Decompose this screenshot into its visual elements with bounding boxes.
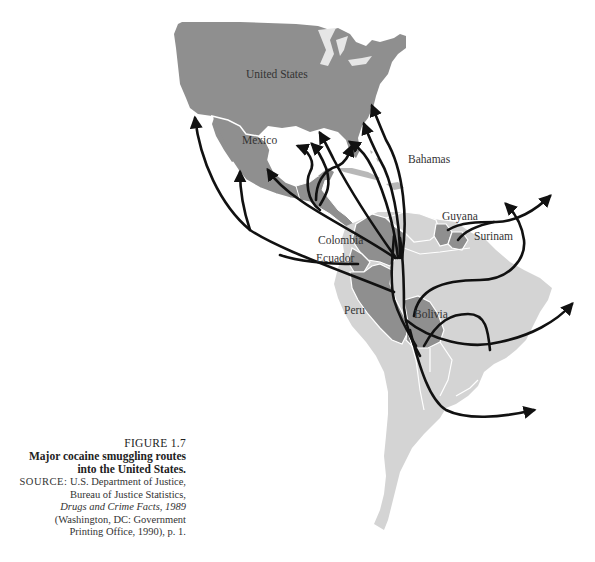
source-line5: Printing Office, 1990), p. 1. [19, 526, 186, 539]
label-bolivia: Bolivia [414, 308, 448, 320]
figure-title-line2: into the United States. [19, 463, 186, 476]
source-line1: SOURCE: U.S. Department of Justice, [19, 476, 186, 489]
source-label: SOURCE: [19, 476, 67, 487]
figure-caption: FIGURE 1.7 Major cocaine smuggling route… [19, 437, 186, 539]
source-line4: (Washington, DC: Government [19, 514, 186, 527]
label-colombia: Colombia [318, 234, 363, 246]
label-mexico: Mexico [242, 134, 277, 146]
label-surinam: Surinam [474, 230, 513, 242]
label-peru: Peru [344, 304, 365, 316]
source-line2: Bureau of Justice Statistics, [19, 489, 186, 502]
label-guyana: Guyana [442, 210, 478, 222]
figure-number: FIGURE 1.7 [19, 437, 186, 450]
label-united-states: United States [246, 68, 308, 80]
source-text-1: U.S. Department of Justice, [70, 476, 186, 487]
label-ecuador: Ecuador [316, 252, 354, 264]
figure-title-line1: Major cocaine smuggling routes [19, 450, 186, 463]
united-states-shape [174, 22, 406, 158]
source-line3: Drugs and Crime Facts, 1989 [19, 501, 186, 514]
label-bahamas: Bahamas [408, 153, 450, 165]
